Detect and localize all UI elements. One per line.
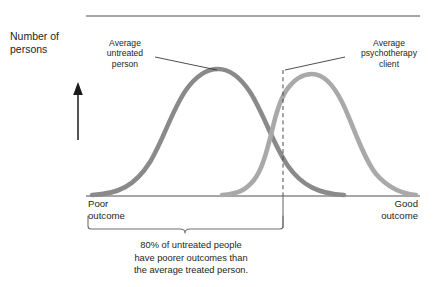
figure-caption: 80% of untreated people have poorer outc…: [93, 239, 289, 277]
leader-line-untreated: [155, 57, 217, 70]
figure-container: Number of persons Average untreated pers…: [0, 0, 434, 287]
leader-line-treated: [285, 57, 345, 70]
annotation-psychotherapy-client: Average psychotherapy client: [348, 38, 430, 69]
x-axis-label-good-outcome: Good outcome: [340, 198, 418, 221]
annotation-untreated-person: Average untreated person: [92, 38, 158, 69]
y-axis-arrow: [73, 82, 83, 140]
curve-untreated: [92, 69, 344, 195]
x-axis-label-poor-outcome: Poor outcome: [88, 198, 162, 221]
